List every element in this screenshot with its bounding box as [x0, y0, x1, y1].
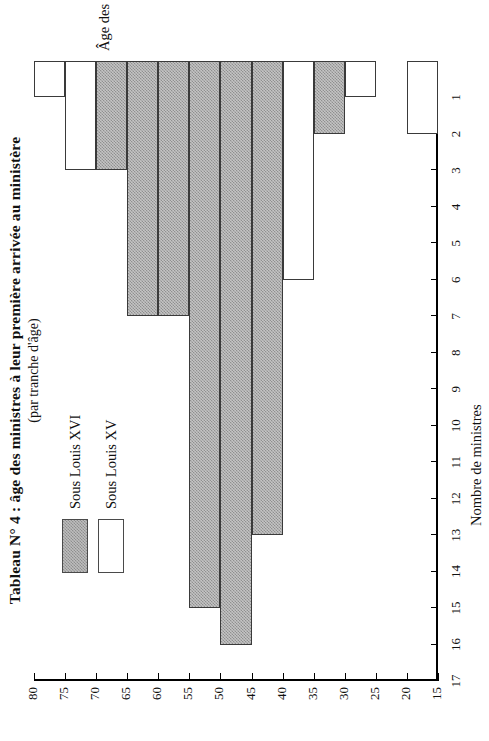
bar-louis-xv: [345, 61, 376, 97]
value-tick: [431, 425, 438, 426]
age-tick-label: 35: [305, 687, 321, 715]
age-tick-label: 55: [180, 687, 196, 715]
value-axis-line: [436, 61, 438, 681]
value-tick-label: 11: [448, 449, 464, 475]
value-tick-label: 4: [448, 194, 464, 220]
value-tick: [431, 498, 438, 499]
age-tick-label: 40: [274, 687, 290, 715]
value-tick: [431, 571, 438, 572]
value-tick-label: 14: [448, 559, 464, 585]
age-tick: [252, 673, 253, 681]
age-tick-label: 20: [398, 687, 414, 715]
age-tick: [127, 673, 128, 681]
bar-louis-xvi: [158, 61, 189, 316]
page-title: Tableau N° 4 : âge des ministres à leur …: [6, 0, 24, 741]
bar-louis-xv: [65, 61, 96, 170]
age-tick-label: 75: [56, 687, 72, 715]
bar-louis-xvi: [314, 61, 345, 134]
value-tick: [431, 169, 438, 170]
age-tick-label: 80: [25, 687, 41, 715]
value-tick-label: 7: [448, 303, 464, 329]
value-tick: [431, 352, 438, 353]
age-tick: [283, 673, 284, 681]
value-tick-label: 3: [448, 157, 464, 183]
bar-louis-xvi: [127, 61, 158, 316]
age-tick: [96, 673, 97, 681]
bar-louis-xv: [407, 61, 438, 134]
age-tick-label: 60: [149, 687, 165, 715]
age-tick-label: 15: [429, 687, 445, 715]
age-tick-label: 70: [87, 687, 103, 715]
value-tick-label: 6: [448, 267, 464, 293]
category-axis-line: [34, 679, 438, 681]
category-axis-title: Âge des ministres: [96, 0, 113, 51]
value-tick-label: 5: [448, 230, 464, 256]
value-tick-label: 1: [448, 84, 464, 110]
bar-louis-xvi: [96, 61, 127, 170]
age-tick-label: 25: [367, 687, 383, 715]
value-tick: [431, 388, 438, 389]
age-tick: [314, 673, 315, 681]
age-tick: [34, 673, 35, 681]
age-tick: [158, 673, 159, 681]
age-tick: [345, 673, 346, 681]
value-tick-label: 2: [448, 121, 464, 147]
value-tick: [431, 607, 438, 608]
age-tick-label: 45: [243, 687, 259, 715]
age-tick: [407, 673, 408, 681]
value-tick-label: 9: [448, 376, 464, 402]
bar-louis-xv: [283, 61, 314, 280]
value-tick-label: 13: [448, 522, 464, 548]
value-tick: [431, 279, 438, 280]
plot-area: 1234567891011121314151617 15202530354045…: [34, 61, 438, 681]
value-tick: [431, 206, 438, 207]
value-tick: [431, 680, 438, 681]
age-tick: [376, 673, 377, 681]
age-tick-label: 50: [211, 687, 227, 715]
value-tick: [431, 644, 438, 645]
value-tick-label: 8: [448, 340, 464, 366]
value-tick-label: 16: [448, 632, 464, 658]
bar-louis-xv: [34, 61, 65, 97]
value-tick: [431, 534, 438, 535]
value-tick-label: 15: [448, 595, 464, 621]
value-tick: [431, 242, 438, 243]
bar-louis-xvi: [189, 61, 220, 608]
value-tick-label: 10: [448, 413, 464, 439]
age-tick-label: 30: [336, 687, 352, 715]
age-tick-label: 65: [118, 687, 134, 715]
bar-louis-xvi: [252, 61, 283, 535]
value-tick-label: 17: [448, 668, 464, 694]
value-tick-label: 12: [448, 486, 464, 512]
value-axis-title: Nombre de ministres: [468, 404, 485, 526]
value-tick: [431, 315, 438, 316]
age-tick: [65, 673, 66, 681]
chart-stage: Tableau N° 4 : âge des ministres à leur …: [0, 0, 489, 741]
age-tick: [189, 673, 190, 681]
age-tick: [220, 673, 221, 681]
bar-louis-xvi: [220, 61, 251, 645]
value-tick: [431, 461, 438, 462]
age-tick: [438, 673, 439, 681]
